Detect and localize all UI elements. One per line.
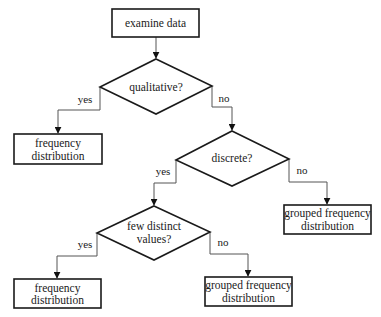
node-label: discrete? — [212, 152, 253, 164]
node-label-line-2: distribution — [301, 220, 354, 232]
edge-label-qualitative-no: no — [219, 92, 231, 104]
edge-label-few-distinct-yes: yes — [78, 238, 93, 250]
node-label-line-2: values? — [137, 233, 171, 245]
node-few-distinct-values: few distinct values? — [97, 206, 210, 260]
node-qualitative: qualitative? — [100, 59, 212, 114]
edge-discrete-no — [289, 159, 327, 204]
edge-label-discrete-yes: yes — [156, 165, 171, 177]
node-examine-data: examine data — [112, 9, 199, 37]
node-frequency-distribution-2: frequency distribution — [14, 279, 101, 308]
flowchart-diagram: yes no yes no yes no examine data qualit… — [0, 0, 381, 317]
node-label-line-2: distribution — [31, 150, 84, 162]
node-label-line-2: distribution — [31, 294, 84, 306]
edge-label-qualitative-yes: yes — [78, 93, 93, 105]
node-grouped-frequency-distribution-2: grouped frequency distribution — [205, 277, 292, 306]
edge-few-distinct-no — [210, 232, 248, 276]
node-label-line-1: grouped frequency — [205, 279, 292, 292]
node-label: qualitative? — [129, 81, 183, 94]
node-label-line-1: few distinct — [127, 220, 182, 232]
node-grouped-frequency-distribution-1: grouped frequency distribution — [284, 205, 371, 234]
node-discrete: discrete? — [176, 131, 289, 186]
node-label: examine data — [125, 17, 186, 29]
edge-label-few-distinct-no: no — [218, 236, 230, 248]
node-label-line-1: frequency — [35, 137, 81, 150]
edge-label-discrete-no: no — [297, 164, 309, 176]
node-frequency-distribution-1: frequency distribution — [14, 134, 102, 164]
node-label-line-1: grouped frequency — [284, 207, 371, 220]
node-label-line-2: distribution — [222, 292, 275, 304]
